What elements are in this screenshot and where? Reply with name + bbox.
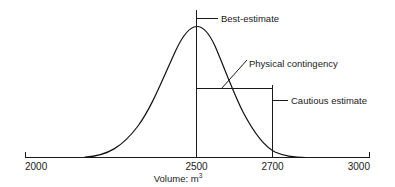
chart-canvas: Best-estimate Physical contingency Cauti… <box>0 0 395 187</box>
x-tick-label-3000: 3000 <box>348 161 371 172</box>
x-tick-label-2500: 2500 <box>185 161 208 172</box>
physical-contingency-label: Physical contingency <box>249 58 338 69</box>
physical-contingency-leader-line <box>222 60 248 89</box>
x-tick-label-2700: 2700 <box>261 161 284 172</box>
cautious-estimate-label: Cautious estimate <box>291 95 367 106</box>
best-estimate-label: Best-estimate <box>221 13 279 24</box>
x-axis-title-superscript: 3 <box>199 172 203 179</box>
x-axis-title: Volume: m3 <box>154 172 203 184</box>
x-axis-title-text: Volume: m <box>154 173 199 184</box>
x-tick-label-2000: 2000 <box>25 161 48 172</box>
figure-distribution-chart: Best-estimate Physical contingency Cauti… <box>0 0 395 187</box>
